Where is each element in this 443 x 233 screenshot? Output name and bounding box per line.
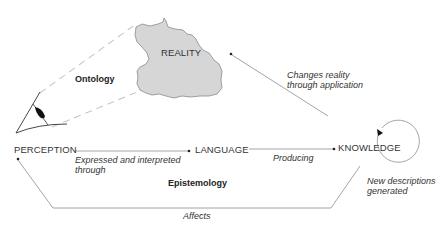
- diagram-canvas: [0, 0, 443, 233]
- note-knowledge-reality: Changes reality through application: [287, 70, 363, 91]
- node-reality: REALITY: [161, 48, 201, 59]
- area-ontology: Ontology: [75, 74, 115, 84]
- note-knowledge-perception: Affects: [183, 211, 211, 221]
- sight-line-lower: [52, 90, 142, 127]
- node-language: LANGUAGE: [195, 145, 249, 156]
- node-knowledge: KNOWLEDGE: [338, 143, 401, 154]
- note-knowledge-self-loop: New descriptions generated: [367, 176, 436, 197]
- note-perception-language: Expressed and interpreted through: [75, 155, 181, 176]
- area-epistemology: Epistemology: [168, 178, 227, 188]
- node-perception: PERCEPTION: [14, 145, 77, 156]
- self-loop-arrowhead: [377, 129, 383, 136]
- eye-icon: [16, 92, 67, 133]
- note-language-knowledge: Producing: [273, 153, 314, 163]
